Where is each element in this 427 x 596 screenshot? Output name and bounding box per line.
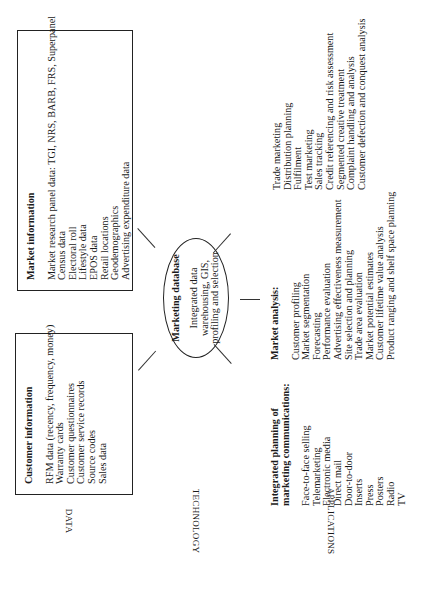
list-item: Credit referencing and risk assessment — [325, 20, 336, 190]
list-item: Source codes — [87, 340, 98, 484]
list-item: Trade marketing — [272, 20, 283, 190]
market-analysis-section: Market analysis: Customer profiling Mark… — [270, 200, 397, 360]
market-information-box: Market information Market research panel… — [17, 30, 133, 291]
integrated-planning-title: Integrated planning of marketing communi… — [270, 366, 291, 506]
list-item: Customer defection and conquest analysis — [357, 20, 368, 190]
row-label-data: DATA — [63, 486, 74, 556]
integrated-planning-title-line: marketing communications: — [281, 366, 292, 506]
marketing-database-ellipse: Marketing database Integrated data wareh… — [163, 238, 229, 358]
list-item: Direct mail — [333, 366, 344, 506]
connector-line — [137, 228, 155, 248]
marketing-database-title: Marketing database — [171, 254, 182, 341]
list-item: Radio — [386, 366, 397, 506]
list-item: EPOS data — [89, 37, 100, 280]
list-item: Sales data — [98, 340, 109, 484]
market-analysis-list: Customer profiling Market segmentation F… — [291, 200, 397, 360]
connector-line — [214, 344, 232, 364]
list-item: Advertising expenditure data — [121, 37, 132, 280]
other-applications-section: Trade marketing Distribution planning Fu… — [272, 20, 367, 190]
list-item: TV — [397, 366, 408, 506]
connector-line — [213, 233, 231, 253]
marketing-database-line: profiling and selection — [210, 252, 221, 344]
customer-information-title: Customer information — [24, 340, 35, 484]
customer-information-box: Customer information RFM data (recency, … — [15, 333, 133, 495]
connector-line — [240, 299, 260, 300]
row-label-technology: TECHNOLOGY — [190, 476, 201, 566]
list-item: Product ranging and shelf space planning — [386, 200, 397, 360]
customer-information-list: RFM data (recency, frequency, money) War… — [45, 340, 109, 484]
connector-line — [138, 351, 156, 371]
other-applications-list: Trade marketing Distribution planning Fu… — [272, 20, 367, 190]
market-information-title: Market information — [26, 37, 37, 280]
integrated-planning-title-line: Integrated planning of — [270, 366, 281, 506]
integrated-planning-list: Face-to-face selling Telemarketing Elect… — [301, 366, 407, 506]
market-information-list: Market research panel data: TGI, NRS, BA… — [47, 37, 132, 280]
marketing-database-diagram: DATA TECHNOLOGY APPLICATIONS Customer in… — [0, 0, 427, 596]
marketing-database-line: Integrated data — [189, 268, 200, 329]
market-analysis-title: Market analysis: — [270, 200, 281, 360]
integrated-planning-section: Integrated planning of marketing communi… — [270, 366, 407, 506]
list-item: Advertising effectiveness measurement — [333, 200, 344, 360]
